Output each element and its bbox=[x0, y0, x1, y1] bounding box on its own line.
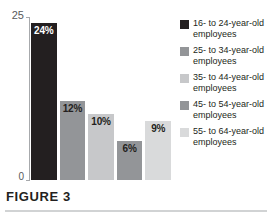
legend-item-label: 45- to 54-year-old employees bbox=[193, 99, 272, 121]
bar-2: 12% bbox=[60, 101, 86, 180]
y-axis-tick-label-max: 25 bbox=[2, 10, 24, 21]
legend-item-2: 25- to 34-year-old employees bbox=[180, 45, 272, 67]
legend-item-5: 55- to 64-year-old employees bbox=[180, 126, 272, 148]
bar-value-label: 6% bbox=[123, 144, 137, 154]
legend-swatch-icon bbox=[180, 101, 189, 110]
bar-value-label: 10% bbox=[91, 117, 110, 127]
legend-item-label: 16- to 24-year-old employees bbox=[193, 18, 272, 40]
y-axis-tick-min bbox=[26, 180, 30, 181]
y-axis-tick-max bbox=[26, 17, 30, 18]
bar-5: 9% bbox=[145, 121, 171, 180]
y-axis-line bbox=[29, 17, 30, 180]
chart-plot-area: 25 0 24%12%10%6%9% bbox=[0, 0, 176, 190]
caption-divider bbox=[5, 210, 267, 212]
bar-value-label: 24% bbox=[34, 26, 53, 36]
legend-swatch-icon bbox=[180, 20, 189, 29]
legend-item-4: 45- to 54-year-old employees bbox=[180, 99, 272, 121]
figure-caption: FIGURE 3 bbox=[6, 189, 71, 204]
legend-swatch-icon bbox=[180, 47, 189, 56]
legend-item-label: 35- to 44-year-old employees bbox=[193, 72, 272, 94]
figure-container: 25 0 24%12%10%6%9% 16- to 24-year-old em… bbox=[0, 0, 272, 220]
y-axis-tick-label-min: 0 bbox=[2, 172, 24, 182]
bar-value-label: 12% bbox=[63, 104, 82, 114]
bar-value-label: 9% bbox=[151, 124, 165, 134]
chart-legend: 16- to 24-year-old employees25- to 34-ye… bbox=[180, 18, 272, 153]
bar-series: 24%12%10%6%9% bbox=[31, 16, 171, 180]
legend-item-1: 16- to 24-year-old employees bbox=[180, 18, 272, 40]
legend-item-label: 55- to 64-year-old employees bbox=[193, 126, 272, 148]
legend-item-label: 25- to 34-year-old employees bbox=[193, 45, 272, 67]
bar-3: 10% bbox=[88, 114, 114, 180]
legend-item-3: 35- to 44-year-old employees bbox=[180, 72, 272, 94]
legend-swatch-icon bbox=[180, 74, 189, 83]
bar-1: 24% bbox=[31, 23, 57, 180]
bar-4: 6% bbox=[117, 141, 143, 180]
legend-swatch-icon bbox=[180, 128, 189, 137]
